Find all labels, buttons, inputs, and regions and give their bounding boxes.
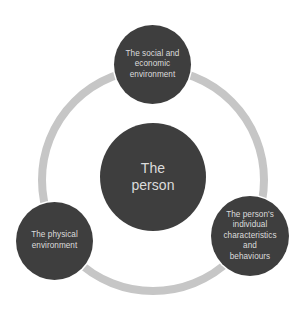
center-node-the-person: The person <box>100 123 206 231</box>
node-individual-characteristics: The person's individual characteristics … <box>211 196 289 276</box>
node-physical-environment: The physical environment <box>16 202 93 280</box>
node-label: The person's individual characteristics … <box>223 210 276 263</box>
node-social-economic-environment: The social and economic environment <box>114 25 191 104</box>
node-label: The social and economic environment <box>126 49 180 81</box>
center-node-label: The person <box>131 160 174 194</box>
node-label: The physical environment <box>31 230 78 251</box>
